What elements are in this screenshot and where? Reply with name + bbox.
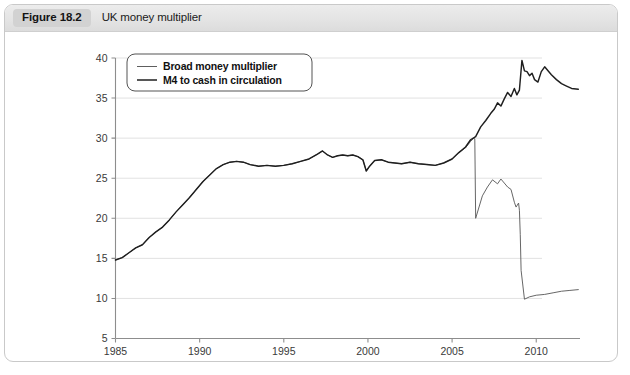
chart-plot-area: 510152025303540 198519901995200020052010… bbox=[5, 32, 617, 362]
y-axis-ticks: 510152025303540 bbox=[96, 52, 116, 345]
y-tick-label: 30 bbox=[96, 132, 108, 144]
gridlines bbox=[116, 58, 543, 298]
line-chart: 510152025303540 198519901995200020052010… bbox=[5, 32, 617, 362]
x-tick-label: 2000 bbox=[356, 345, 380, 357]
x-tick-label: 2005 bbox=[440, 345, 464, 357]
x-axis-ticks: 198519901995200020052010 bbox=[104, 339, 548, 357]
figure-title: UK money multiplier bbox=[102, 12, 202, 24]
y-tick-label: 10 bbox=[96, 292, 108, 304]
y-tick-label: 20 bbox=[96, 212, 108, 224]
y-tick-label: 15 bbox=[96, 252, 108, 264]
figure-container: Figure 18.2 UK money multiplier 51015202… bbox=[4, 4, 618, 362]
legend-label-m4-to-cash: M4 to cash in circulation bbox=[163, 74, 282, 86]
x-tick-label: 1995 bbox=[272, 345, 296, 357]
figure-caption-bar: Figure 18.2 UK money multiplier bbox=[5, 5, 617, 32]
y-tick-label: 5 bbox=[102, 332, 108, 344]
y-tick-label: 40 bbox=[96, 52, 108, 64]
x-tick-label: 2010 bbox=[525, 345, 549, 357]
legend-label-broad-money-multiplier: Broad money multiplier bbox=[163, 60, 277, 72]
y-tick-label: 35 bbox=[96, 92, 108, 104]
y-tick-label: 25 bbox=[96, 172, 108, 184]
figure-number-badge: Figure 18.2 bbox=[13, 9, 91, 28]
x-tick-label: 1990 bbox=[188, 345, 212, 357]
x-tick-label: 1985 bbox=[104, 345, 128, 357]
chart-legend: Broad money multiplier M4 to cash in cir… bbox=[127, 54, 312, 91]
